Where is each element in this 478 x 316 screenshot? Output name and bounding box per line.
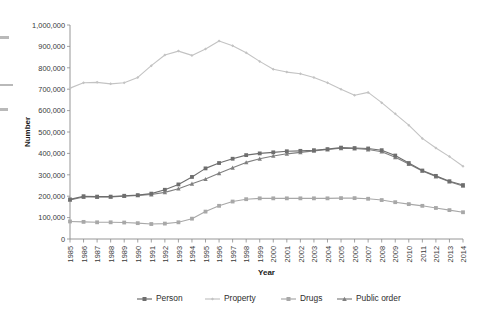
x-tick-label: 1986 (80, 246, 89, 262)
x-tick-label: 1997 (229, 246, 238, 262)
x-tick-label: 2008 (378, 246, 387, 262)
chart-container: 0100,000200,000300,000400,000500,000600,… (0, 0, 478, 316)
data-point (95, 220, 99, 224)
data-point (204, 210, 208, 214)
data-point (380, 148, 384, 152)
x-tick-label: 2009 (391, 246, 400, 262)
data-point (298, 196, 302, 200)
data-point (287, 297, 291, 301)
x-tick-label: 1992 (161, 246, 170, 262)
x-tick-label: 1996 (215, 246, 224, 262)
data-point (407, 202, 411, 206)
data-point (136, 221, 140, 225)
data-point (82, 81, 85, 84)
data-point (258, 196, 262, 200)
data-point (136, 193, 140, 197)
series-line (70, 148, 463, 200)
data-point (177, 50, 180, 53)
data-point (82, 220, 86, 224)
data-point (163, 222, 167, 226)
x-tick-label: 2007 (364, 246, 373, 262)
x-tick-label: 2001 (283, 246, 292, 262)
data-point (353, 196, 357, 200)
x-tick-label: 2000 (269, 246, 278, 262)
data-point (420, 169, 424, 173)
x-tick-label: 1993 (175, 246, 184, 262)
x-tick-label: 1999 (256, 246, 265, 262)
series-line (70, 41, 463, 166)
data-point (258, 152, 262, 156)
data-point (204, 166, 208, 170)
x-tick-label: 2010 (405, 246, 414, 262)
y-tick-label: 1,000,000 (32, 21, 65, 30)
data-point (366, 197, 370, 201)
data-point (190, 217, 194, 221)
data-point (95, 195, 99, 199)
data-point (244, 153, 248, 157)
legend-item-public-order[interactable]: Public order (337, 293, 401, 303)
data-point (434, 206, 438, 210)
data-point (96, 81, 99, 84)
data-point (271, 150, 275, 154)
data-point (211, 297, 214, 300)
data-point (461, 183, 465, 187)
data-point (109, 220, 113, 224)
y-tick-label: 900,000 (38, 42, 65, 51)
data-point (461, 210, 465, 214)
y-tick-label: 400,000 (38, 149, 65, 158)
legend-item-drugs[interactable]: Drugs (281, 293, 322, 303)
x-tick-label: 1989 (120, 246, 129, 262)
legend-item-person[interactable]: Person (137, 293, 183, 303)
data-point (298, 149, 302, 153)
data-point (190, 175, 194, 179)
data-point (407, 161, 411, 165)
legend-item-property[interactable]: Property (205, 293, 256, 303)
y-tick-label: 200,000 (38, 192, 65, 201)
x-tick-label: 2012 (432, 246, 441, 262)
x-tick-label: 2014 (459, 246, 468, 262)
data-point (143, 297, 147, 301)
y-tick-label: 500,000 (38, 128, 65, 137)
y-tick-label: 100,000 (38, 213, 65, 222)
data-point (353, 146, 357, 150)
data-point (312, 196, 316, 200)
x-tick-label: 1988 (107, 246, 116, 262)
data-point (448, 179, 452, 183)
data-point (231, 157, 235, 161)
x-tick-label: 2011 (419, 246, 428, 262)
x-tick-label: 2013 (446, 246, 455, 262)
data-point (393, 200, 397, 204)
x-tick-label: 2006 (351, 246, 360, 262)
data-point (420, 204, 424, 208)
series-property (69, 40, 465, 168)
y-tick-label: 800,000 (38, 64, 65, 73)
data-point (109, 195, 113, 199)
data-point (312, 148, 316, 152)
data-point (109, 82, 112, 85)
data-point (326, 147, 330, 151)
data-point (448, 208, 452, 212)
y-tick-label: 300,000 (38, 171, 65, 180)
data-point (123, 81, 126, 84)
data-point (299, 72, 302, 75)
data-point (271, 196, 275, 200)
x-axis: 1985198619871988198919901991199219931994… (66, 239, 468, 262)
data-point (149, 222, 153, 226)
x-tick-label: 2005 (337, 246, 346, 262)
series-line (70, 198, 463, 224)
series-drugs (68, 196, 465, 226)
x-tick-label: 1987 (93, 246, 102, 262)
data-point (285, 196, 289, 200)
y-axis: 0100,000200,000300,000400,000500,000600,… (32, 21, 70, 244)
data-point (339, 196, 343, 200)
x-axis-title: Year (258, 268, 275, 277)
legend-label: Public order (356, 293, 401, 303)
data-point (177, 220, 181, 224)
data-point (339, 146, 343, 150)
data-point (68, 198, 72, 202)
data-point (177, 183, 181, 187)
data-point (285, 71, 288, 74)
legend-label: Property (224, 293, 256, 303)
x-tick-label: 2003 (310, 246, 319, 262)
data-point (217, 161, 221, 165)
